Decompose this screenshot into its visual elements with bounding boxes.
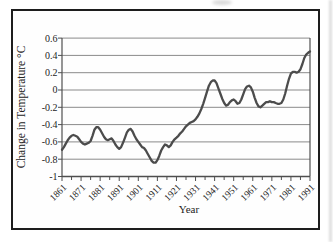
x-tick-label: 1961 [239,182,260,203]
scan-edge-shadow [329,0,332,242]
y-tick-label: 0.4 [45,50,58,61]
x-tick-label: 1881 [86,182,107,203]
x-tick-label: 1861 [48,182,69,203]
x-tick-label: 1921 [162,182,183,203]
x-tick-label: 1901 [124,182,145,203]
x-tick-label: 1931 [181,182,202,203]
x-tick-label: 1951 [220,182,241,203]
chart-plot-area: 0.60.40.20-0.2-0.4-0.6-0.8-1186118711881… [42,33,317,203]
x-tick-label: 1981 [277,182,298,203]
y-tick-label: -0.4 [42,119,58,130]
figure-page: 0.60.40.20-0.2-0.4-0.6-0.8-1186118711881… [0,0,333,242]
y-tick-label: -1 [49,171,57,182]
y-tick-label: -0.6 [42,136,58,147]
x-tick-label: 1941 [201,182,222,203]
y-tick-label: -0.8 [42,154,58,165]
x-tick-label: 1891 [105,182,126,203]
temperature-line-chart: 0.60.40.20-0.2-0.4-0.6-0.8-1186118711881… [0,0,333,242]
y-tick-label: -0.2 [42,102,58,113]
y-axis-title: Change in Temperature °C [15,45,28,168]
x-tick-label: 1871 [67,182,88,203]
y-tick-label: 0.6 [45,33,58,44]
x-axis-title: Year [179,203,200,215]
y-tick-label: 0 [53,84,58,95]
x-tick-label: 1911 [144,182,164,202]
x-tick-label: 1991 [296,182,317,203]
x-tick-label: 1971 [258,182,279,203]
y-tick-label: 0.2 [45,67,58,78]
